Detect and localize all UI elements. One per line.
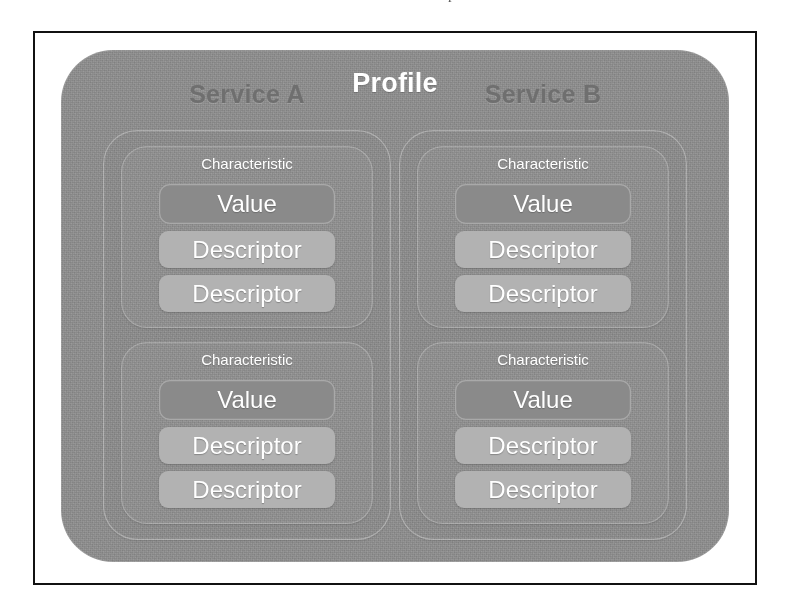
descriptor-label: Descriptor — [488, 236, 597, 264]
value-label: Value — [513, 190, 573, 218]
characteristic-box: Characteristic Value Descriptor Descript… — [121, 342, 373, 524]
value-label: Value — [217, 190, 277, 218]
descriptor-label: Descriptor — [192, 280, 301, 308]
value-label: Value — [513, 386, 573, 414]
scan-artifact-glyph: p — [448, 0, 456, 3]
value-box: Value — [455, 184, 631, 224]
characteristic-label: Characteristic — [121, 155, 373, 172]
characteristic-box: Characteristic Value Descriptor Descript… — [417, 342, 669, 524]
descriptor-box: Descriptor — [159, 275, 335, 312]
value-box: Value — [455, 380, 631, 420]
descriptor-box: Descriptor — [455, 471, 631, 508]
descriptor-label: Descriptor — [192, 236, 301, 264]
descriptor-box: Descriptor — [159, 231, 335, 268]
characteristic-box: Characteristic Value Descriptor Descript… — [121, 146, 373, 328]
service-container-a: Service A Characteristic Value Descripto… — [103, 130, 391, 540]
descriptor-label: Descriptor — [192, 432, 301, 460]
descriptor-label: Descriptor — [192, 476, 301, 504]
value-box: Value — [159, 380, 335, 420]
value-box: Value — [159, 184, 335, 224]
scan-artifact-glyph: o — [520, 0, 528, 3]
page-title: Profile — [61, 68, 729, 99]
service-container-b: Service B Characteristic Value Descripto… — [399, 130, 687, 540]
descriptor-label: Descriptor — [488, 476, 597, 504]
characteristic-label: Characteristic — [417, 155, 669, 172]
descriptor-box: Descriptor — [455, 231, 631, 268]
descriptor-box: Descriptor — [455, 427, 631, 464]
descriptor-box: Descriptor — [159, 471, 335, 508]
service-row: Service A Characteristic Value Descripto… — [61, 50, 729, 562]
characteristic-label: Characteristic — [417, 351, 669, 368]
scan-artifact-glyph: o — [348, 0, 356, 3]
profile-panel: Profile Service A Characteristic Value D… — [61, 50, 729, 562]
scan-artifact-row: o p o o — [0, 0, 786, 30]
descriptor-box: Descriptor — [455, 275, 631, 312]
figure-frame: Profile Service A Characteristic Value D… — [33, 31, 757, 585]
characteristic-label: Characteristic — [121, 351, 373, 368]
value-label: Value — [217, 386, 277, 414]
characteristic-box: Characteristic Value Descriptor Descript… — [417, 146, 669, 328]
descriptor-box: Descriptor — [159, 427, 335, 464]
descriptor-label: Descriptor — [488, 432, 597, 460]
descriptor-label: Descriptor — [488, 280, 597, 308]
scan-artifact-glyph: o — [610, 0, 618, 3]
